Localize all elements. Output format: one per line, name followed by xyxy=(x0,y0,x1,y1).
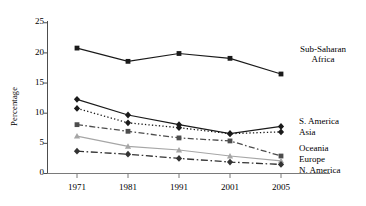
data-point-marker xyxy=(228,56,233,61)
data-point-marker xyxy=(74,96,80,103)
data-point-marker xyxy=(125,151,131,158)
data-point-marker xyxy=(75,46,80,51)
series-asia xyxy=(74,105,284,137)
data-point-marker xyxy=(279,154,284,159)
data-point-marker xyxy=(125,112,131,119)
x-axis-ticks xyxy=(77,174,281,179)
data-point-marker xyxy=(176,155,182,162)
data-point-marker xyxy=(75,122,80,127)
y-axis-ticks xyxy=(44,23,48,174)
data-point-marker xyxy=(74,133,80,139)
data-point-marker xyxy=(126,129,131,134)
data-point-marker xyxy=(74,148,80,155)
data-point-marker xyxy=(177,136,182,141)
data-point-marker xyxy=(177,51,182,56)
data-point-marker xyxy=(227,159,233,166)
data-point-marker xyxy=(228,139,233,144)
line-chart: Percentage 0 5 10 15 20 25 1971 1981 199… xyxy=(0,0,366,206)
plot-area xyxy=(0,0,366,206)
data-point-marker xyxy=(279,72,284,77)
data-point-marker xyxy=(74,105,80,112)
data-point-marker xyxy=(227,130,233,137)
series-layer xyxy=(74,46,284,168)
data-point-marker xyxy=(126,59,131,64)
series-sub-saharan-africa xyxy=(75,46,284,77)
data-point-marker xyxy=(278,128,284,135)
data-point-marker xyxy=(125,119,131,126)
